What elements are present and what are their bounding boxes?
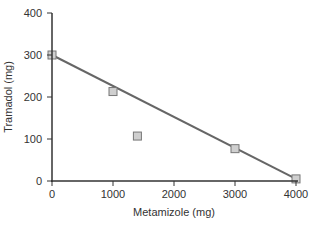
data-point-marker (133, 132, 141, 140)
y-tick-label: 200 (24, 91, 42, 103)
x-tick-label: 1000 (101, 188, 125, 200)
data-point-marker (109, 88, 117, 96)
y-axis-title: Tramadol (mg) (2, 61, 14, 133)
isobologram-chart: 010020030040001000200030004000 Metamizol… (0, 0, 313, 226)
x-tick-label: 4000 (284, 188, 308, 200)
x-tick-label: 3000 (223, 188, 247, 200)
y-tick-label: 0 (36, 175, 42, 187)
x-tick-label: 0 (49, 188, 55, 200)
y-tick-label: 400 (24, 7, 42, 19)
axes: 010020030040001000200030004000 (24, 7, 309, 200)
plot-area (48, 51, 300, 183)
y-tick-label: 300 (24, 49, 42, 61)
x-tick-label: 2000 (162, 188, 186, 200)
y-tick-label: 100 (24, 133, 42, 145)
data-point-marker (231, 145, 239, 153)
additivity-line (52, 55, 296, 179)
x-axis-title: Metamizole (mg) (133, 206, 215, 218)
